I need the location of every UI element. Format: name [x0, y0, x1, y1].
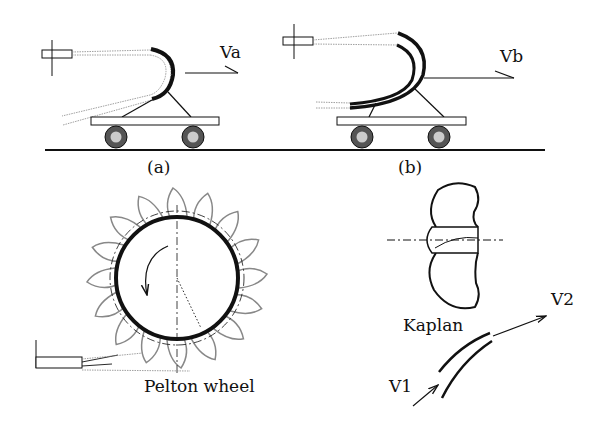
vane-a	[151, 49, 173, 99]
turbine-diagram: Va (a) Vb (b)	[0, 0, 608, 433]
outlet-arrow	[493, 316, 546, 336]
pelton-nozzle	[36, 357, 82, 368]
inlet-arrow	[413, 385, 438, 406]
velocity-label-b: Vb	[499, 46, 523, 66]
inlet-label: V1	[388, 376, 412, 396]
kaplan-caption: Kaplan	[403, 315, 463, 335]
kaplan-runner: Kaplan	[387, 183, 503, 335]
pelton-wheel: Pelton wheel	[36, 188, 267, 396]
wheel-a-left	[105, 126, 127, 148]
panel-b: Vb (b)	[283, 24, 523, 177]
blade-velocity-sketch: V2 V1	[388, 289, 574, 406]
cart-a	[91, 117, 219, 125]
kaplan-blade-bottom	[429, 253, 478, 308]
blade-profile-lower	[442, 341, 492, 398]
nozzle-a	[42, 50, 72, 58]
kaplan-blade-top	[431, 183, 478, 227]
wheel-a-right	[182, 126, 204, 148]
panel-a: Va (a)	[42, 40, 241, 177]
wheel-b-right	[428, 126, 450, 148]
velocity-label-a: Va	[219, 42, 241, 62]
outlet-label: V2	[550, 289, 574, 309]
cart-b	[337, 117, 466, 125]
wheel-b-left	[351, 126, 373, 148]
caption-a: (a)	[147, 157, 170, 177]
pelton-caption: Pelton wheel	[144, 376, 255, 396]
caption-b: (b)	[398, 157, 422, 177]
nozzle-b	[283, 37, 313, 45]
